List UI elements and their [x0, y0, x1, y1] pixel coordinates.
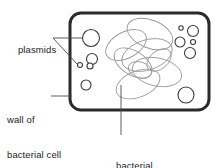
dna-loop-5	[112, 63, 164, 104]
plasmid-circles	[78, 26, 199, 104]
plasmid-circle-5	[179, 26, 183, 30]
label-dna-line1: bacterial	[116, 160, 153, 168]
plasmid-circle-3	[87, 63, 93, 69]
plasmid-circle-8	[191, 40, 196, 45]
bacterial-dna-strands	[100, 12, 184, 105]
dna-loop-2	[118, 33, 177, 78]
dna-loop-6	[142, 44, 175, 76]
label-wall-line1: wall of	[7, 114, 61, 126]
dna-loop-3	[109, 42, 157, 85]
leader-line-plasmids-to-small-circles	[53, 38, 77, 64]
dna-loop-1	[123, 12, 178, 56]
label-bacterial-dna: bacterial DNA	[116, 137, 153, 168]
label-plasmids-text: plasmids	[18, 44, 56, 55]
plasmid-circle-4	[81, 80, 91, 90]
bacterial-cell-diagram: plasmids wall of bacterial cell bacteria…	[0, 0, 219, 168]
label-wall-line2: bacterial cell	[7, 149, 61, 161]
plasmid-circle-10	[178, 87, 194, 103]
label-plasmids: plasmids	[7, 32, 56, 67]
plasmid-circle-6	[188, 26, 199, 37]
plasmid-circle-0	[83, 30, 100, 47]
dna-loop-0	[100, 23, 151, 67]
label-wall-of-bacterial-cell: wall of bacterial cell	[7, 91, 61, 168]
plasmid-circle-7	[175, 37, 185, 47]
plasmid-circle-2	[78, 63, 83, 68]
plasmid-circle-9	[185, 48, 196, 59]
plasmid-circle-1	[87, 54, 98, 65]
